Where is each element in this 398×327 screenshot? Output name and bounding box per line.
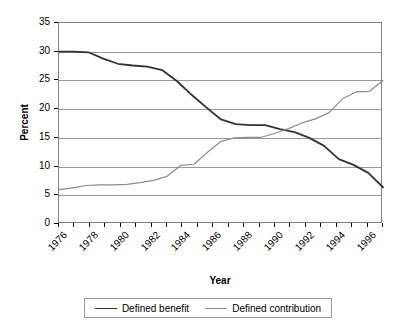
x-axis-tick-mark — [336, 223, 337, 227]
y-axis-tick-label: 35 — [18, 17, 50, 27]
x-axis-tick-label: 1994 — [316, 230, 347, 261]
y-axis-title: Percent — [19, 93, 30, 153]
y-axis-tick-mark — [54, 137, 58, 138]
x-axis-tick-mark — [197, 223, 198, 227]
x-axis-tick-mark — [120, 223, 121, 227]
y-axis-tick-mark — [54, 22, 58, 23]
legend-line-swatch-defined-contribution — [205, 308, 227, 309]
x-axis-tick-mark — [228, 223, 229, 227]
y-axis-tick-label: 20 — [18, 103, 50, 113]
x-axis-tick-mark — [259, 223, 260, 227]
x-axis-tick-label: 1992 — [285, 230, 316, 261]
x-axis-tick-label: 1988 — [223, 230, 254, 261]
y-axis-tick-mark — [54, 108, 58, 109]
chart-container: Percent 05101520253035 19761978198019821… — [0, 0, 398, 327]
x-axis-tick-label: 1984 — [161, 230, 192, 261]
y-axis-tick-mark — [54, 51, 58, 52]
x-axis-tick-mark — [382, 223, 383, 227]
y-axis-tick-label: 5 — [18, 189, 50, 199]
x-axis-tick-label: 1980 — [100, 230, 131, 261]
x-axis-tick-label: 1978 — [69, 230, 100, 261]
x-axis-tick-mark — [151, 223, 152, 227]
y-axis-tick-label: 15 — [18, 132, 50, 142]
y-axis-tick-label: 30 — [18, 46, 50, 56]
x-axis-tick-label: 1982 — [131, 230, 162, 261]
legend-label-defined-benefit: Defined benefit — [122, 303, 189, 314]
x-axis-tick-mark — [104, 223, 105, 227]
series-line-defined-contribution — [59, 80, 383, 189]
x-axis-tick-label: 1996 — [347, 230, 378, 261]
x-axis-tick-mark — [320, 223, 321, 227]
x-axis-tick-mark — [367, 223, 368, 227]
x-axis-tick-label: 1976 — [38, 230, 69, 261]
x-axis-tick-label: 1986 — [192, 230, 223, 261]
plot-area — [58, 22, 382, 223]
x-axis-title: Year — [160, 275, 280, 286]
x-axis-tick-mark — [135, 223, 136, 227]
series-lines — [59, 23, 383, 224]
x-axis-tick-mark — [89, 223, 90, 227]
x-axis-tick-mark — [289, 223, 290, 227]
x-axis-tick-mark — [166, 223, 167, 227]
series-line-defined-benefit — [59, 52, 383, 188]
y-axis-tick-label: 25 — [18, 74, 50, 84]
y-axis-tick-label: 10 — [18, 161, 50, 171]
y-axis-tick-label: 0 — [18, 218, 50, 228]
x-axis-tick-mark — [58, 223, 59, 227]
x-axis-tick-mark — [181, 223, 182, 227]
x-axis-tick-mark — [73, 223, 74, 227]
legend-line-swatch-defined-benefit — [95, 308, 117, 309]
legend-item-defined-contribution: Defined contribution — [205, 303, 321, 314]
y-axis-tick-mark — [54, 194, 58, 195]
x-axis-tick-mark — [305, 223, 306, 227]
x-axis-tick-mark — [351, 223, 352, 227]
chart-legend: Defined benefit Defined contribution — [84, 298, 332, 318]
x-axis-tick-mark — [212, 223, 213, 227]
x-axis-tick-mark — [243, 223, 244, 227]
y-axis-tick-mark — [54, 166, 58, 167]
x-axis-tick-mark — [274, 223, 275, 227]
x-axis-tick-label: 1990 — [254, 230, 285, 261]
legend-label-defined-contribution: Defined contribution — [232, 303, 321, 314]
legend-item-defined-benefit: Defined benefit — [95, 303, 189, 314]
y-axis-tick-mark — [54, 79, 58, 80]
